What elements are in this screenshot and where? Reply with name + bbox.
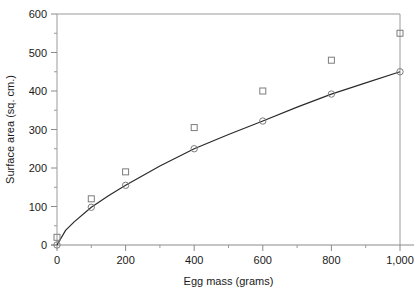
scatter-plot: 010020030040050060002004006008001,000Egg…: [0, 0, 418, 294]
y-tick-label: 200: [29, 162, 47, 174]
observed-data-point: [88, 196, 94, 202]
observed-data-point: [328, 57, 334, 63]
x-tick-label: 600: [254, 254, 272, 266]
x-tick-label: 1,000: [386, 254, 414, 266]
x-tick-label: 400: [185, 254, 203, 266]
x-tick-label: 0: [54, 254, 60, 266]
y-tick-label: 0: [41, 239, 47, 251]
x-tick-label: 200: [116, 254, 134, 266]
observed-data-point: [260, 88, 266, 94]
x-tick-label: 800: [322, 254, 340, 266]
fit-curve-line: [57, 72, 400, 245]
y-tick-label: 400: [29, 85, 47, 97]
y-tick-label: 100: [29, 201, 47, 213]
observed-data-point: [191, 125, 197, 131]
y-tick-label: 600: [29, 8, 47, 20]
y-tick-label: 500: [29, 47, 47, 59]
y-axis-title: Surface area (sq. cm.): [4, 75, 16, 184]
observed-data-point: [123, 169, 129, 175]
series-1-markers: [54, 30, 403, 240]
plot-frame: [57, 14, 400, 245]
x-axis-title: Egg mass (grams): [184, 275, 274, 287]
y-tick-label: 300: [29, 124, 47, 136]
series-2-markers: [54, 69, 403, 249]
chart-container: 010020030040050060002004006008001,000Egg…: [0, 0, 418, 294]
